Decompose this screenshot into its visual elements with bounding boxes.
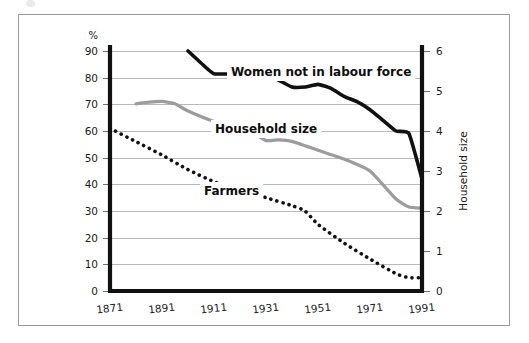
y-axis-tick-label: 70	[85, 98, 98, 110]
y2-axis-tick-label: 5	[436, 85, 443, 97]
y-axis-tick-label: 80	[85, 72, 98, 84]
y2-axis-tick-label: 6	[436, 45, 443, 57]
x-axis-tick-label: 1951	[304, 301, 332, 316]
y-axis-tick-label: 0	[91, 285, 98, 297]
y-axis-tick-label: 40	[85, 178, 98, 190]
y-axis-tick-label: 10	[85, 258, 98, 270]
right-axis-title: Household size	[457, 131, 469, 210]
y-axis-tick-label: 30	[85, 205, 98, 217]
axis-spines	[110, 47, 422, 291]
x-axis-tick-label: 1971	[356, 301, 384, 316]
y2-axis-tick-label: 4	[436, 125, 443, 137]
y-axis-tick-label: 50	[85, 152, 98, 164]
x-axis-tick-label: 1891	[148, 301, 176, 316]
series-label-household-size: Household size	[215, 122, 317, 136]
chart-frame: 0102030405060708090012345618711891191119…	[18, 14, 510, 326]
y-axis-tick-label: 60	[85, 125, 98, 137]
y2-axis-tick-label: 1	[436, 245, 443, 257]
x-axis-tick-label: 1991	[408, 301, 436, 316]
series-label-farmers: Farmers	[204, 184, 259, 198]
y2-axis-tick-label: 2	[436, 205, 443, 217]
x-axis-tick-label: 1871	[96, 301, 124, 316]
line-chart: 0102030405060708090012345618711891191119…	[19, 15, 509, 325]
figure-root: 0102030405060708090012345618711891191119…	[0, 0, 529, 343]
series-line-farmers	[110, 128, 422, 278]
y2-axis-tick-label: 3	[436, 165, 443, 177]
scan-artifact	[26, 0, 35, 7]
y-axis-tick-label: 20	[85, 232, 98, 244]
x-axis-tick-label: 1931	[252, 301, 280, 316]
y-axis-tick-label: 90	[85, 45, 98, 57]
y2-axis-tick-label: 0	[436, 285, 443, 297]
left-axis-unit-label: %	[88, 30, 98, 41]
series-label-women-not-in-labour-force: Women not in labour force	[231, 65, 411, 79]
x-axis-tick-label: 1911	[200, 301, 228, 316]
